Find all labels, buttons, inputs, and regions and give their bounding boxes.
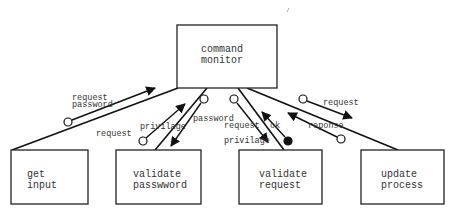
validate-password-label-2: passwword — [133, 180, 187, 191]
data-couple-icon — [299, 95, 307, 103]
label-privilage: privilage — [140, 122, 186, 132]
update-process-label-1: update — [381, 169, 417, 180]
module-command-monitor[interactable]: command monitor — [177, 25, 277, 88]
data-couple-icon — [200, 95, 208, 103]
data-couple-icon — [230, 95, 238, 103]
validate-password-label-1: validate — [133, 169, 181, 180]
label-password: password — [72, 100, 113, 110]
get-input-label-1: get — [27, 169, 45, 180]
label-ok: ok — [270, 121, 280, 131]
module-get-input[interactable]: get input — [11, 150, 88, 204]
module-update-process[interactable]: update process — [361, 150, 444, 204]
get-input-label-2: input — [27, 180, 57, 191]
label-reponse: reponse — [308, 121, 344, 131]
get-input-box — [11, 150, 88, 204]
data-couple-icon — [64, 118, 72, 126]
module-validate-request[interactable]: validate request — [239, 150, 322, 204]
command-monitor-label-2: monitor — [201, 55, 243, 66]
command-monitor-label-1: command — [201, 44, 243, 55]
data-couple-icon — [139, 137, 147, 145]
data-couple-icon — [337, 135, 345, 143]
validate-request-label-2: request — [259, 180, 301, 191]
label-privilage-vr: privilage — [224, 136, 270, 146]
module-validate-password[interactable]: validate passwword — [116, 150, 201, 204]
label-request-vp: request — [96, 129, 132, 139]
label-request-up: request — [323, 98, 359, 108]
control-flag-icon — [284, 137, 292, 145]
stray-mark — [287, 8, 289, 12]
label-request-vr: request — [224, 121, 260, 131]
update-process-label-2: process — [381, 180, 423, 191]
validate-request-label-1: validate — [259, 169, 307, 180]
structure-chart: command monitor get input validate passw… — [0, 0, 453, 213]
